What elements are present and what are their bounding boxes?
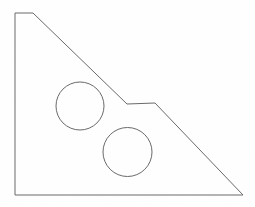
upper-hole-circle (56, 82, 104, 130)
technical-drawing-figure (0, 0, 255, 207)
lower-hole-circle (103, 128, 152, 177)
plate-outline-path (15, 13, 243, 195)
drawing-canvas (0, 0, 255, 207)
